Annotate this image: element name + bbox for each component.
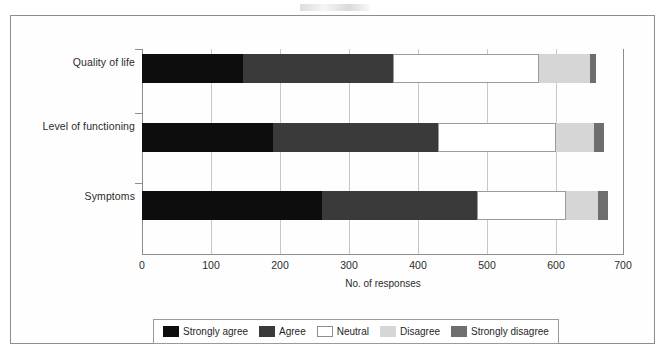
bar-segment-strongly-agree[interactable] xyxy=(142,123,273,152)
chart-legend: Strongly agree Agree Neutral Disagree St… xyxy=(153,319,559,344)
bar-segment-agree[interactable] xyxy=(273,123,438,152)
bar-segment-disagree[interactable] xyxy=(539,54,590,83)
legend-label-neutral: Neutral xyxy=(337,326,369,337)
legend-swatch-disagree-icon xyxy=(380,326,396,337)
bar-segment-agree[interactable] xyxy=(322,191,477,220)
x-tick-label-400: 400 xyxy=(409,259,427,271)
legend-item-agree[interactable]: Agree xyxy=(259,326,306,337)
legend-swatch-neutral-icon xyxy=(317,326,333,337)
bar-segment-agree[interactable] xyxy=(243,54,393,83)
y-axis-tick-1 xyxy=(135,113,142,114)
y-label-level-of-functioning: Level of functioning xyxy=(17,120,135,132)
bar-symptoms[interactable] xyxy=(142,191,608,220)
legend-swatch-strongly-disagree-icon xyxy=(451,326,467,337)
x-axis-title: No. of responses xyxy=(142,278,624,289)
legend-item-strongly-agree[interactable]: Strongly agree xyxy=(163,326,248,337)
legend-item-disagree[interactable]: Disagree xyxy=(380,326,440,337)
gridline-700 xyxy=(623,49,624,254)
x-tick-label-200: 200 xyxy=(271,259,289,271)
y-axis-tick-top xyxy=(135,49,142,50)
y-label-symptoms: Symptoms xyxy=(17,190,135,202)
bar-segment-neutral[interactable] xyxy=(393,54,539,83)
y-label-quality-of-life: Quality of life xyxy=(17,56,135,68)
bar-level-of-functioning[interactable] xyxy=(142,123,604,152)
bar-segment-strongly-disagree[interactable] xyxy=(590,54,596,83)
legend-swatch-agree-icon xyxy=(259,326,275,337)
legend-item-strongly-disagree[interactable]: Strongly disagree xyxy=(451,326,549,337)
bar-segment-disagree[interactable] xyxy=(566,191,598,220)
legend-swatch-strongly-agree-icon xyxy=(163,326,179,337)
legend-label-strongly-agree: Strongly agree xyxy=(183,326,248,337)
legend-label-disagree: Disagree xyxy=(400,326,440,337)
bar-segment-neutral[interactable] xyxy=(438,123,556,152)
chart-figure-frame: Quality of life Level of functioning Sym… xyxy=(10,15,655,344)
x-tick-label-100: 100 xyxy=(202,259,220,271)
x-tick-label-500: 500 xyxy=(478,259,496,271)
y-axis-category-labels: Quality of life Level of functioning Sym… xyxy=(11,49,135,254)
x-axis-line xyxy=(142,254,624,255)
bar-segment-strongly-disagree[interactable] xyxy=(594,123,604,152)
x-tick-label-600: 600 xyxy=(547,259,565,271)
x-tick-label-700: 700 xyxy=(614,259,632,271)
x-tick-label-0: 0 xyxy=(139,259,145,271)
x-tick-label-300: 300 xyxy=(340,259,358,271)
x-axis-tick-labels: 0 100 200 300 400 500 600 700 xyxy=(142,259,624,275)
bar-segment-strongly-disagree[interactable] xyxy=(598,191,608,220)
bar-segment-strongly-agree[interactable] xyxy=(142,54,243,83)
legend-item-neutral[interactable]: Neutral xyxy=(317,326,369,337)
bar-quality-of-life[interactable] xyxy=(142,54,596,83)
bar-segment-neutral[interactable] xyxy=(477,191,566,220)
y-axis-tick-2 xyxy=(135,183,142,184)
bar-segment-strongly-agree[interactable] xyxy=(142,191,322,220)
legend-label-strongly-disagree: Strongly disagree xyxy=(471,326,549,337)
scan-artifact xyxy=(300,4,370,11)
bar-segment-disagree[interactable] xyxy=(556,123,594,152)
plot-area xyxy=(142,49,624,254)
legend-label-agree: Agree xyxy=(279,326,306,337)
